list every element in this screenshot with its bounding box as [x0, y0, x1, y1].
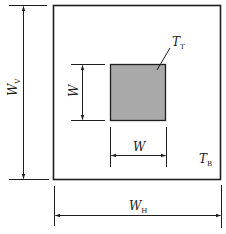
inner-width-dimension: W — [111, 127, 167, 167]
inner-height-dimension: W — [67, 65, 105, 121]
inner-width-label: W — [133, 140, 147, 154]
outer-height-dimension: WV — [6, 6, 49, 180]
outer-width-dimension: WH — [55, 185, 222, 228]
inner-height-label: W — [67, 83, 81, 97]
inner-square — [111, 65, 166, 121]
outer-height-label: WV — [6, 78, 22, 96]
inner-temperature-label: TT — [172, 35, 185, 51]
board-temperature-label: TB — [199, 152, 212, 168]
dimension-diagram: WV W W WH TT TB — [0, 0, 226, 234]
outer-width-label: WH — [129, 199, 147, 215]
